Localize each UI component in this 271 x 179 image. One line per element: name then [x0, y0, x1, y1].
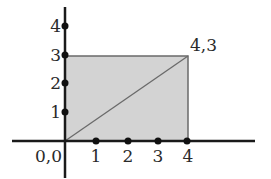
x-tick-label-3: 3 [153, 146, 164, 166]
x-tick-label-1: 1 [91, 146, 102, 166]
y-tick-dot-1 [62, 109, 69, 116]
y-tick-dot-4 [62, 23, 69, 30]
x-tick-dot-2 [125, 138, 132, 145]
x-tick-dot-1 [93, 138, 100, 145]
y-tick-dot-3 [62, 52, 69, 59]
y-tick-label-3: 3 [50, 45, 61, 65]
x-tick-label-4: 4 [183, 146, 194, 166]
corner-label: 4,3 [190, 35, 217, 55]
x-tick-label-2: 2 [123, 146, 134, 166]
y-tick-label-4: 4 [50, 16, 61, 36]
origin-label: 0,0 [35, 146, 62, 166]
coordinate-diagram: 1 2 3 4 1 2 3 4 0,0 4,3 [0, 0, 271, 179]
x-tick-dot-4 [184, 138, 191, 145]
y-tick-label-1: 1 [50, 102, 61, 122]
y-tick-dot-2 [62, 80, 69, 87]
y-tick-label-2: 2 [50, 73, 61, 93]
x-tick-dot-3 [155, 138, 162, 145]
